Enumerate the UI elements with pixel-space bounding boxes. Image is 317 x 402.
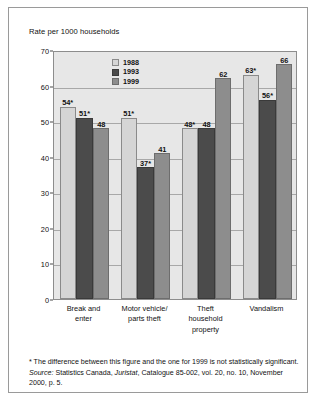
x-category-label-3: Thefthouseholdproperty: [188, 304, 222, 335]
bar-value-label-1993-3: 48: [202, 120, 210, 129]
x-category-label-1: Break andenter: [67, 304, 101, 325]
legend-item-1999: 1999: [112, 77, 139, 86]
bar-value-label-1999-1: 48: [97, 120, 105, 129]
bar-1999-2: [154, 153, 170, 299]
y-tick-label-50: 50: [41, 118, 49, 127]
y-tick-label-20: 20: [41, 224, 49, 233]
bar-1988-1: [60, 107, 76, 299]
bar-1999-4: [276, 64, 292, 299]
gridline-60: [54, 88, 296, 89]
legend-label-1988: 1988: [123, 58, 139, 67]
source-label: Source:: [29, 369, 53, 377]
legend-label-1993: 1993: [123, 67, 139, 76]
legend-swatch-1988: [112, 59, 119, 66]
x-axis-category-labels: Break andenterMotor vehicle/parts theftT…: [53, 304, 297, 348]
plot-wrapper: 54*51*4851*37*4148*486263*56*66: [53, 51, 297, 300]
legend-item-1988: 1988: [112, 58, 139, 67]
bar-value-label-1999-2: 41: [158, 145, 166, 154]
y-tick-label-70: 70: [41, 47, 49, 56]
bar-value-label-1993-1: 51*: [79, 109, 90, 118]
y-tick-label-10: 10: [41, 260, 49, 269]
y-tick-label-0: 0: [45, 296, 49, 305]
bar-value-label-1999-4: 66: [280, 56, 288, 65]
bar-value-label-1993-4: 56*: [262, 91, 273, 100]
figure-frame: Rate per 1000 households 010203040506070…: [8, 7, 308, 393]
legend-item-1993: 1993: [112, 67, 139, 76]
bar-value-label-1988-2: 51*: [123, 109, 134, 118]
y-tick-label-60: 60: [41, 82, 49, 91]
plot-area: 54*51*4851*37*4148*486263*56*66: [53, 51, 297, 300]
bar-1993-3: [198, 128, 214, 299]
x-category-label-2: Motor vehicle/parts theft: [121, 304, 167, 325]
y-tick-label-40: 40: [41, 153, 49, 162]
source-line: Source: Statistics Canada, Juristat, Cat…: [29, 368, 301, 388]
bar-1988-4: [243, 75, 259, 299]
bar-1993-1: [76, 118, 92, 299]
bar-value-label-1993-2: 37*: [140, 159, 151, 168]
legend-swatch-1993: [112, 69, 119, 76]
bar-value-label-1988-4: 63*: [245, 66, 256, 75]
x-category-label-4: Vandalism: [250, 304, 284, 314]
bar-1999-3: [215, 78, 231, 299]
bar-value-label-1999-3: 62: [219, 70, 227, 79]
bar-1993-2: [137, 167, 153, 299]
axis-title: Rate per 1000 households: [29, 27, 119, 36]
bar-1988-3: [182, 128, 198, 299]
chart-legend: 198819931999: [112, 58, 139, 86]
legend-swatch-1999: [112, 78, 119, 85]
bar-1999-1: [93, 128, 109, 299]
bar-1988-2: [121, 118, 137, 299]
source-publication: Juristat: [115, 369, 138, 377]
bar-value-label-1988-3: 48*: [184, 120, 195, 129]
footnote-significance: * The difference between this figure and…: [29, 357, 301, 367]
bar-1993-4: [259, 100, 275, 299]
bar-value-label-1988-1: 54*: [62, 98, 73, 107]
legend-label-1999: 1999: [123, 77, 139, 86]
figure-notes: * The difference between this figure and…: [29, 357, 301, 389]
y-tick-label-30: 30: [41, 189, 49, 198]
source-agency: Statistics Canada,: [53, 369, 114, 377]
y-axis-ticks: 010203040506070: [27, 51, 49, 300]
